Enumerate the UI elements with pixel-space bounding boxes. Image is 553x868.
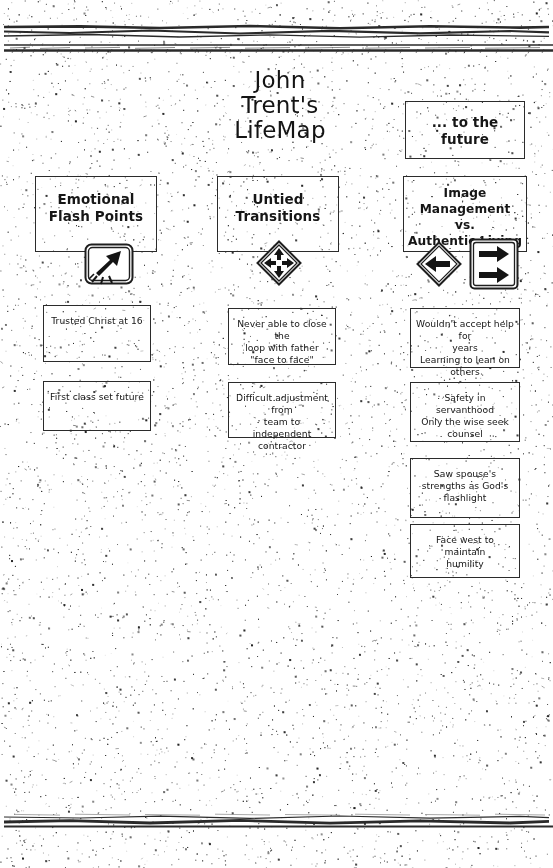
header-label: UntiedTransitions — [218, 191, 338, 225]
title-line-1: John — [180, 68, 380, 93]
note-box[interactable]: Saw spouse'sstrengths as God'sflashlight — [410, 458, 520, 518]
note-box[interactable]: First class set future — [43, 381, 151, 431]
note-box[interactable]: Difficult adjustment fromteam to indepen… — [228, 382, 336, 438]
rocket-icon — [84, 243, 134, 289]
header-label: EmotionalFlash Points — [36, 191, 156, 225]
future-box-label: ... to thefuture — [406, 114, 524, 148]
future-box[interactable]: ... to thefuture — [405, 101, 525, 159]
note-box[interactable]: Face west to maintainhumility — [410, 524, 520, 578]
lifemap-page: John Trent's LifeMap ... to thefuture Em… — [0, 0, 553, 868]
four-way-arrow-icon — [256, 240, 302, 290]
note-text: Wouldn't accept help foryearsLearning to… — [416, 318, 514, 378]
note-text: First class set future — [49, 391, 145, 403]
page-title: John Trent's LifeMap — [180, 68, 380, 143]
note-text: Face west to maintainhumility — [416, 534, 514, 570]
note-text: Never able to close theloop with father"… — [234, 318, 330, 366]
note-box[interactable]: Safety in servanthoodOnly the wise seekc… — [410, 382, 520, 442]
note-box[interactable]: Wouldn't accept help foryearsLearning to… — [410, 308, 520, 368]
note-box[interactable]: Trusted Christ at 16 — [43, 305, 151, 362]
note-text: Trusted Christ at 16 — [49, 315, 145, 327]
note-text: Safety in servanthoodOnly the wise seekc… — [416, 392, 514, 440]
double-right-arrow-icon — [469, 238, 519, 294]
left-arrow-diamond-icon — [416, 241, 462, 291]
header-box-emotional-flash-points[interactable]: EmotionalFlash Points — [35, 176, 157, 252]
title-line-2: Trent's — [180, 93, 380, 118]
note-box[interactable]: Never able to close theloop with father"… — [228, 308, 336, 365]
title-line-3: LifeMap — [180, 118, 380, 143]
note-text: Difficult adjustment fromteam to indepen… — [234, 392, 330, 452]
note-text: Saw spouse'sstrengths as God'sflashlight — [416, 468, 514, 504]
